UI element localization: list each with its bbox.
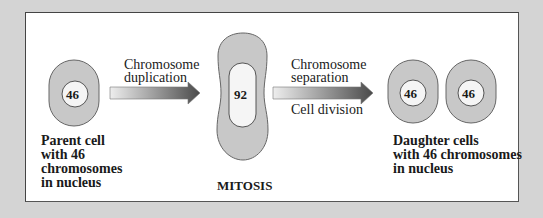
parent-count: 46 bbox=[66, 87, 79, 102]
parent-caption-line3: chromosomes bbox=[41, 161, 122, 176]
duplication-arrow bbox=[110, 82, 200, 104]
mitosis-count: 92 bbox=[234, 87, 247, 102]
parent-caption-line4: in nucleus bbox=[41, 175, 101, 190]
daughter-caption-line3: in nucleus bbox=[393, 161, 453, 176]
daughter-caption-line2: with 46 chromosomes bbox=[393, 147, 522, 162]
mitosis-label: MITOSIS bbox=[217, 178, 272, 193]
step2-label-line2: separation bbox=[291, 70, 349, 85]
daughter-left-count: 46 bbox=[404, 86, 417, 101]
step1-label-line2: duplication bbox=[124, 70, 187, 85]
parent-caption-line2: with 46 bbox=[41, 147, 85, 162]
daughter-caption-line1: Daughter cells bbox=[393, 133, 479, 148]
parent-caption-line1: Parent cell bbox=[41, 133, 105, 148]
separation-arrow bbox=[273, 82, 373, 104]
daughter-right-count: 46 bbox=[462, 86, 475, 101]
step2-label-below: Cell division bbox=[291, 102, 363, 117]
